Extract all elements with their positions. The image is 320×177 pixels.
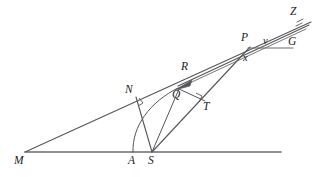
label-angle-v: v bbox=[263, 36, 268, 47]
diagram-canvas bbox=[0, 0, 320, 177]
label-point-t: T bbox=[203, 101, 209, 113]
hatch-marks-near-z bbox=[296, 19, 303, 26]
geometry-diagram: M A S N Q R T P v x G Z bbox=[0, 0, 320, 177]
label-point-g: G bbox=[288, 36, 296, 48]
label-point-q: Q bbox=[172, 89, 180, 101]
label-point-z: Z bbox=[290, 6, 296, 18]
label-point-n: N bbox=[125, 84, 133, 96]
label-point-p: P bbox=[241, 32, 248, 44]
label-point-r: R bbox=[181, 61, 188, 73]
label-point-a: A bbox=[128, 155, 135, 167]
label-angle-x: x bbox=[243, 53, 248, 64]
label-point-m: M bbox=[14, 155, 24, 167]
label-point-s: S bbox=[148, 155, 154, 167]
segment-q-t-line bbox=[179, 89, 205, 101]
ray-m-to-z-line bbox=[25, 22, 311, 152]
